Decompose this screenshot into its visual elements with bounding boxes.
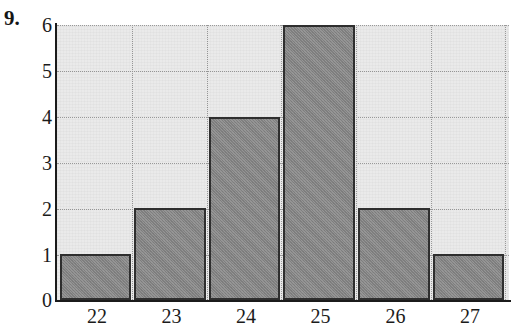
chart-plot bbox=[57, 25, 509, 300]
x-tick-24: 24 bbox=[209, 306, 283, 326]
bar-26 bbox=[358, 208, 430, 300]
y-axis-line bbox=[55, 23, 57, 302]
x-axis-line bbox=[55, 300, 511, 302]
x-tick-23: 23 bbox=[134, 306, 209, 326]
histogram-figure: 9. 6 5 4 3 2 1 0 bbox=[0, 0, 516, 332]
gridline-x-6 bbox=[505, 25, 506, 300]
gridline-x-1 bbox=[132, 25, 133, 300]
bar-24 bbox=[209, 117, 280, 300]
y-tick-3: 3 bbox=[6, 153, 52, 173]
y-tick-0: 0 bbox=[6, 290, 52, 310]
x-tick-27: 27 bbox=[433, 306, 507, 326]
gridline-x-5 bbox=[431, 25, 432, 300]
x-tick-25: 25 bbox=[283, 306, 358, 326]
y-tick-6: 6 bbox=[6, 15, 52, 35]
y-tick-2: 2 bbox=[6, 199, 52, 219]
gridline-x-3 bbox=[281, 25, 282, 300]
bar-22 bbox=[60, 254, 131, 300]
x-tick-22: 22 bbox=[60, 306, 134, 326]
y-tick-4: 4 bbox=[6, 107, 52, 127]
bar-27 bbox=[433, 254, 504, 300]
y-axis-tick-labels: 6 5 4 3 2 1 0 bbox=[0, 0, 52, 332]
x-tick-26: 26 bbox=[358, 306, 433, 326]
y-tick-5: 5 bbox=[6, 61, 52, 81]
gridline-x-4 bbox=[356, 25, 357, 300]
y-tick-1: 1 bbox=[6, 245, 52, 265]
plot-area bbox=[57, 25, 509, 300]
gridline-x-2 bbox=[207, 25, 208, 300]
bar-23 bbox=[134, 208, 206, 300]
bar-25 bbox=[283, 25, 355, 300]
